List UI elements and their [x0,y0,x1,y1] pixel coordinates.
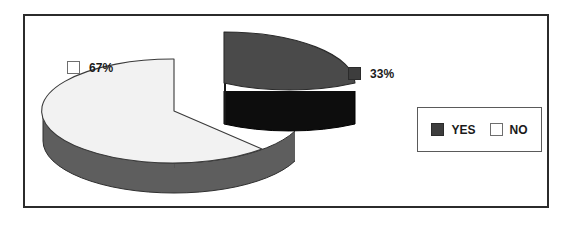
data-label-no-text: 67% [89,62,113,74]
legend-yes-swatch-icon [431,123,444,136]
pie-slice-yes-cut-wall [224,83,226,124]
legend-yes-label: YES [451,124,475,136]
legend-item-yes: YES [431,123,475,136]
legend-no-swatch-icon [490,123,503,136]
pie-slice-yes-top [224,32,355,90]
plot-area [25,16,425,210]
chart-legend: YES NO [417,107,542,152]
legend-item-no: NO [490,123,528,136]
data-label-yes-swatch-icon [348,67,361,80]
pie-slice-yes [224,32,355,131]
chart-frame: 67% 33% YES NO [23,14,549,208]
data-label-no: 67% [67,61,113,74]
pie-chart-figure: 67% 33% YES NO [0,0,569,225]
data-label-no-swatch-icon [67,61,80,74]
data-label-yes: 33% [348,67,394,80]
data-label-yes-text: 33% [370,68,394,80]
pie-3d-graphic [25,16,425,210]
legend-no-label: NO [510,124,528,136]
